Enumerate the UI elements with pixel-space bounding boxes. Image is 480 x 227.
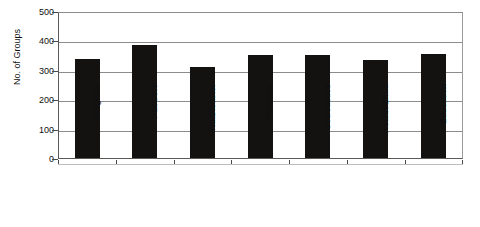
plot-area bbox=[58, 12, 463, 159]
bar-chart: No. of Groups 500 400 300 200 100 0 bbox=[0, 0, 480, 227]
y-tick-label-400: 400 bbox=[26, 37, 54, 46]
y-tick-label-0: 0 bbox=[26, 155, 54, 164]
x-label-education: Education bbox=[438, 84, 448, 164]
y-tick-label-200: 200 bbox=[26, 96, 54, 105]
x-label-financial: Financial bbox=[264, 84, 274, 164]
x-label-socjustice: Soc/Justice bbox=[322, 84, 332, 164]
x-label-religious: Religious bbox=[91, 84, 101, 164]
x-label-healthem: Health/Em... bbox=[380, 84, 390, 164]
bars-layer bbox=[59, 13, 462, 158]
x-axis-category-labels: Religious PubServ NatDisaster Financial … bbox=[0, 164, 480, 227]
y-axis-title: No. of Groups bbox=[12, 9, 22, 105]
y-tick-label-300: 300 bbox=[26, 67, 54, 76]
y-tick-label-500: 500 bbox=[26, 8, 54, 17]
x-label-pubserv: PubServ bbox=[149, 84, 159, 164]
y-tick-label-100: 100 bbox=[26, 126, 54, 135]
x-label-natdisaster: NatDisaster bbox=[207, 84, 217, 164]
